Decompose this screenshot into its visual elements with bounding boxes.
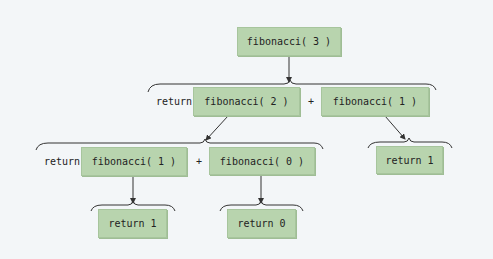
node-fibonacci-1: fibonacci( 1 ) [321, 87, 429, 116]
plus-operator: + [308, 96, 314, 107]
node-return-1: return 1 [98, 209, 167, 238]
return-label: return [156, 96, 192, 107]
node-return-0: return 0 [227, 209, 296, 238]
plus-operator: + [196, 156, 202, 167]
node-fibonacci-2: fibonacci( 2 ) [193, 87, 300, 116]
node-fibonacci-3: fibonacci( 3 ) [237, 27, 341, 56]
node-fibonacci-0: fibonacci( 0 ) [209, 147, 315, 175]
node-return-1: return 1 [376, 146, 443, 174]
node-fibonacci-1: fibonacci( 1 ) [81, 147, 187, 176]
return-label: return [44, 156, 80, 167]
